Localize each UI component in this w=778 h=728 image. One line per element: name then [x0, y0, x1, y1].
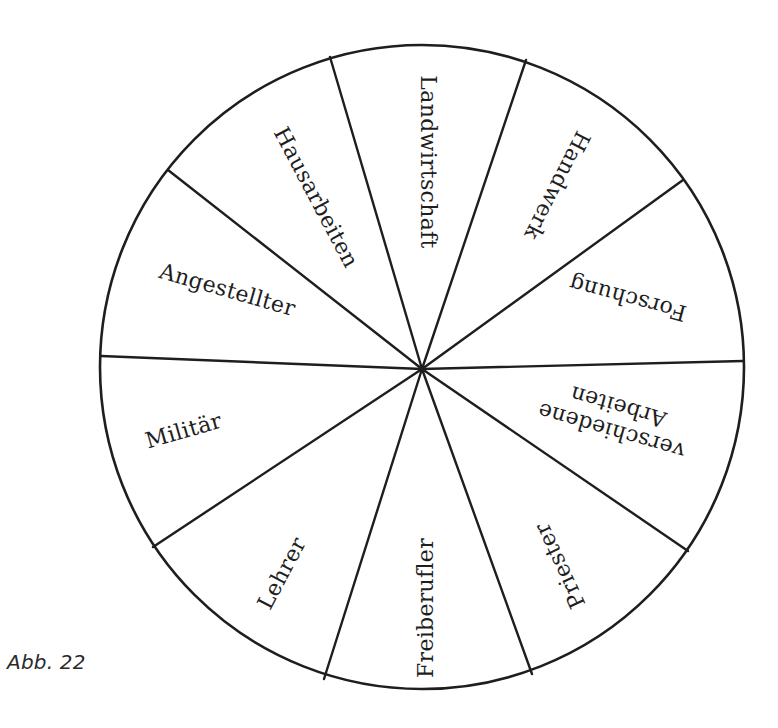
- sector-label: Freiberufler: [413, 538, 438, 678]
- sector-label: Handwerk: [519, 127, 595, 244]
- figure-caption: Abb. 22: [7, 650, 86, 674]
- sector-diagram: LandwirtschaftHandwerkForschungverschied…: [0, 0, 778, 728]
- sector-divider: [153, 369, 422, 547]
- sector-label: Priester: [529, 519, 590, 613]
- sector-label: Militär: [143, 408, 225, 454]
- sector-divider: [422, 369, 688, 551]
- sector-label: Hausarbeiten: [269, 123, 364, 272]
- sector-divider: [422, 369, 532, 674]
- sector-label: Lehrer: [252, 533, 311, 613]
- sector-divider: [324, 369, 422, 679]
- sector-label: Angestellter: [156, 258, 299, 321]
- center-hub: [419, 366, 426, 373]
- sector-divider: [330, 57, 422, 369]
- sector-divider: [422, 361, 743, 369]
- sector-label: Landwirtschaft: [416, 75, 441, 248]
- sector-divider: [101, 356, 422, 369]
- sector-label: verschiedeneArbeiten: [535, 374, 696, 464]
- sector-label: Forschung: [566, 271, 689, 326]
